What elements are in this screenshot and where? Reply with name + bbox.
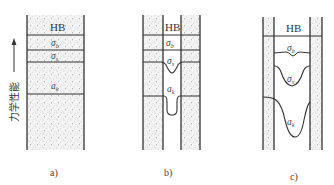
label-hb: HB <box>286 22 301 34</box>
label-sigma-b: σb <box>166 38 174 49</box>
panel-c: HB σb σs ak c) <box>263 17 322 183</box>
caption-c: c) <box>290 171 298 183</box>
label-hb: HB <box>50 21 65 33</box>
panel-a: HB σb σs ak a) <box>27 15 84 179</box>
label-a-k: ak <box>287 117 295 128</box>
arrow-head-icon <box>12 38 17 45</box>
panel-b: HB σb σs ak b) <box>143 15 200 179</box>
caption-a: a) <box>50 167 58 179</box>
caption-b: b) <box>164 167 172 179</box>
label-a-k: ak <box>167 84 175 95</box>
label-sigma-s: σs <box>287 74 295 85</box>
label-hb: HB <box>165 21 180 33</box>
label-sigma-s: σs <box>167 56 175 67</box>
axis-label: 力学性能 <box>8 82 20 122</box>
mechanical-properties-diagram: 力学性能 HB σb σs ak a) HB σb σs ak b) <box>0 0 334 185</box>
axis-label-group: 力学性能 <box>8 38 20 122</box>
label-sigma-b: σb <box>287 43 295 54</box>
